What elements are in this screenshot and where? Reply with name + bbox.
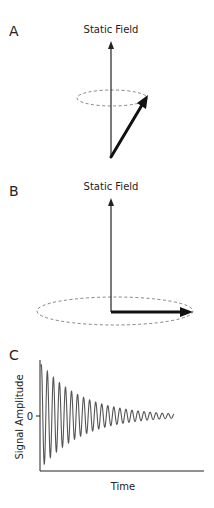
nmr-diagram: A Static Field B Static Field C 0 Signal… — [0, 0, 214, 508]
static-field-arrowhead-icon — [108, 41, 114, 49]
magnetization-arrowhead-icon — [180, 307, 193, 317]
precession-orbit-ellipse — [77, 90, 147, 106]
panel-a: A Static Field — [9, 23, 148, 157]
panel-b-label: B — [9, 183, 19, 199]
y-axis-label: Signal Amplitude — [14, 374, 25, 459]
panel-b: B Static Field — [9, 181, 193, 325]
panel-c: C 0 Signal Amplitude Time — [9, 347, 204, 492]
panel-a-axis-label: Static Field — [84, 24, 139, 35]
x-axis-label: Time — [110, 481, 135, 492]
magnetization-vector — [111, 105, 142, 157]
free-induction-decay-signal — [41, 364, 174, 464]
panel-c-label: C — [9, 347, 19, 363]
panel-b-axis-label: Static Field — [84, 181, 139, 192]
zero-tick-label: 0 — [27, 411, 33, 422]
static-field-arrowhead-icon — [108, 198, 114, 206]
panel-a-label: A — [9, 23, 19, 39]
